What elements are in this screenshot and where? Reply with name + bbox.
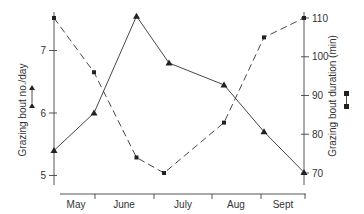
- right-tick-label: 80: [312, 129, 324, 140]
- square-marker-icon: [262, 35, 266, 39]
- square-marker-icon: [222, 121, 226, 125]
- right-tick-label: 70: [312, 168, 324, 179]
- month-label: June: [113, 199, 135, 210]
- triangle-marker-icon: [29, 85, 35, 90]
- right-legend-key: [344, 91, 349, 109]
- square-marker-icon: [52, 16, 56, 20]
- triangle-marker-icon: [166, 60, 173, 66]
- left-axis-label: Grazing bout no./day: [17, 64, 28, 157]
- square-marker-icon: [344, 104, 349, 109]
- series-layer: [51, 13, 308, 175]
- square-marker-icon: [135, 156, 139, 160]
- right-tick-label: 90: [312, 90, 324, 101]
- square-marker-icon: [92, 70, 96, 74]
- left-tick-label: 7: [40, 45, 46, 56]
- triangle-marker-icon: [91, 110, 98, 116]
- triangle-series-line: [54, 16, 304, 172]
- left-tick-label: 6: [40, 108, 46, 119]
- left-legend-key: [29, 85, 35, 108]
- right-tick-label: 110: [312, 13, 328, 24]
- axis-labels: Grazing bout no./day Grazing bout durati…: [17, 35, 338, 157]
- month-label: Sept: [273, 199, 294, 210]
- chart-svg: 567708090100110MayJuneJulyAugSept Grazin…: [0, 0, 364, 214]
- month-label: Aug: [227, 199, 245, 210]
- left-tick-label: 5: [40, 170, 46, 181]
- grazing-chart: 567708090100110MayJuneJulyAugSept Grazin…: [0, 0, 364, 214]
- square-series-line: [54, 18, 304, 173]
- month-label: July: [174, 199, 192, 210]
- triangle-marker-icon: [133, 13, 140, 19]
- square-marker-icon: [302, 16, 306, 20]
- square-marker-icon: [344, 91, 349, 96]
- month-label: May: [67, 199, 86, 210]
- axes: 567708090100110MayJuneJulyAugSept: [40, 12, 329, 210]
- right-axis-label: Grazing bout duration (min): [327, 35, 338, 157]
- triangle-marker-icon: [29, 103, 35, 108]
- square-marker-icon: [162, 171, 166, 175]
